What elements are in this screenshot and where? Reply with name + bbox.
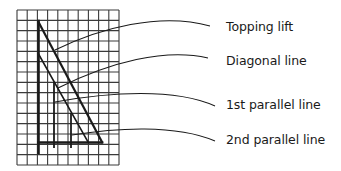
second-parallel-leader	[72, 129, 215, 141]
label-second-parallel-line: 2nd parallel line	[226, 132, 325, 147]
diagonal-line-leader	[58, 55, 208, 88]
leader-lines	[55, 21, 215, 141]
label-first-parallel-line: 1st parallel line	[226, 97, 321, 112]
label-diagonal-line: Diagonal line	[226, 53, 307, 68]
label-topping-lift: Topping lift	[226, 19, 293, 34]
